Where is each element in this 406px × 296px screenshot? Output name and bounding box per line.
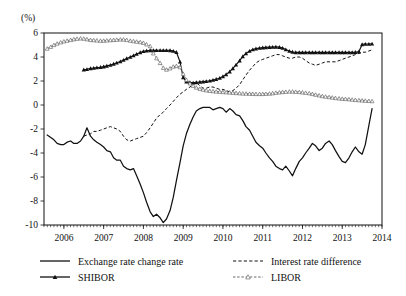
x-axis-tick-label: 2011 [253,233,272,243]
series-line-exchange-rate-change-rate [47,107,372,222]
series-marker [55,42,59,46]
x-axis-tick-label: 2010 [213,233,232,243]
y-axis-tick-label: -8 [30,196,38,206]
y-axis-tick-label: -6 [30,172,38,182]
x-axis-tick-label: 2014 [373,233,392,243]
y-axis-tick-label: 6 [33,28,38,38]
line-chart: (%) 6420-2-4-6-8-10 20062007200820092010… [0,0,406,296]
y-axis-tick-label: 0 [33,100,38,110]
y-axis-tick-label: 4 [33,52,38,62]
legend-item: SHIBOR [40,272,115,283]
plot-area-border [44,33,382,225]
legend-item: LIBOR [233,272,301,283]
legend-item: Exchange rate change rate [40,256,184,267]
x-axis-tick-label: 2013 [333,233,352,243]
data-series-group [45,37,374,223]
legend-label: LIBOR [271,272,301,283]
series-marker [370,99,374,103]
x-axis-tick-label: 2008 [134,233,153,243]
legend-label: Interest rate difference [271,256,362,267]
series-marker [178,60,182,64]
series-marker [337,97,341,101]
series-marker [128,39,132,43]
series-line-shibor [84,44,372,83]
legend-label: Exchange rate change rate [78,256,184,267]
series-marker [161,66,165,70]
x-axis-tick-label: 2012 [293,233,312,243]
chart-figure: (%) 6420-2-4-6-8-10 20062007200820092010… [0,0,406,296]
series-marker [59,40,63,44]
x-axis-tick-label: 2006 [54,233,73,243]
series-marker [95,39,99,43]
x-axis-tick-label: 2007 [94,233,113,243]
x-axis-ticks: 200620072008200920102011201220132014 [54,225,391,243]
series-marker [320,94,324,98]
y-axis-tick-label: -2 [30,124,38,134]
legend-item: Interest rate difference [233,256,362,267]
y-axis-tick-label: -10 [25,220,38,230]
y-axis-ticks: 6420-2-4-6-8-10 [25,28,44,230]
y-axis-tick-label: 2 [33,76,38,86]
y-axis-tick-label: -4 [30,148,38,158]
legend-label: SHIBOR [78,272,115,283]
x-axis-tick-label: 2009 [174,233,193,243]
y-axis-unit-label: (%) [21,13,35,24]
chart-legend: Exchange rate change rateInterest rate d… [40,256,362,283]
